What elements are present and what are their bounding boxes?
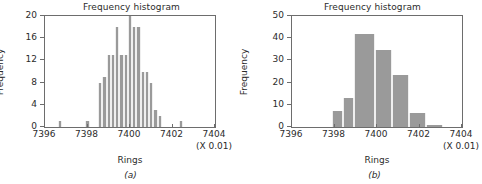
x-axis-title-a: Rings [44,155,216,165]
x-tick-mark [376,124,377,128]
histogram-bar [392,75,409,127]
y-axis-title-a: Frequency [0,48,5,95]
x-tick-label: 7400 [365,129,388,139]
x-axis-multiplier: (X 0.01) [443,141,479,151]
x-axis-a: Rings 73967398740074027404(X 0.01) [44,128,216,168]
y-tick-label: 30 [273,54,284,64]
y-axis-a: Frequency 048121620 [0,15,44,128]
x-tick-mark [87,124,88,128]
x-tick-label: 7402 [407,129,430,139]
x-tick-mark [172,124,173,128]
x-tick-mark [129,124,130,128]
y-tick-label: 10 [273,99,284,109]
histogram-bar [179,121,183,127]
x-tick-mark [291,124,292,128]
histogram-bar [158,116,162,127]
y-tick-label: 16 [26,32,37,42]
y-tick-label: 50 [273,10,284,20]
x-tick-label: 7398 [75,129,98,139]
x-tick-mark [44,124,45,128]
x-axis-b: Rings 73967398740074027404(X 0.01) [291,128,463,168]
x-tick-mark [334,124,335,128]
y-tick-label: 20 [26,10,37,20]
histogram-bar [58,121,62,127]
y-axis-b: Frequency 01020304050 [241,15,291,128]
histogram-bar [426,125,443,127]
histogram-bar [375,50,392,127]
x-axis-title-b: Rings [291,155,463,165]
x-tick-label: 7398 [322,129,345,139]
x-tick-mark [419,124,420,128]
plot-area-a [44,15,216,128]
y-axis-title-b: Frequency [239,48,249,95]
histogram-bar [354,34,375,127]
panel-caption-b: (b) [241,170,482,180]
y-tick-label: 4 [31,99,37,109]
figure-two-histograms: Frequency histogram Frequency 048121620 … [0,0,482,184]
histogram-bar [343,98,354,127]
x-tick-label: 7400 [118,129,141,139]
y-tick-label: 20 [273,77,284,87]
x-tick-mark [461,124,462,128]
x-tick-label: 7404 [203,129,226,139]
x-tick-label: 7396 [280,129,303,139]
x-tick-label: 7396 [33,129,56,139]
histogram-bar [409,113,426,127]
panel-a: Frequency histogram Frequency 048121620 … [0,0,241,184]
panel-b: Frequency histogram Frequency 0102030405… [241,0,482,184]
y-tick-label: 8 [31,77,37,87]
plot-area-b [291,15,463,128]
y-tick-label: 12 [26,54,37,64]
y-tick-label: 40 [273,32,284,42]
x-tick-label: 7402 [160,129,183,139]
x-axis-multiplier: (X 0.01) [196,141,232,151]
x-tick-label: 7404 [450,129,473,139]
bars-a [45,16,215,127]
panel-caption-a: (a) [0,170,241,180]
x-tick-mark [214,124,215,128]
bars-b [292,16,462,127]
